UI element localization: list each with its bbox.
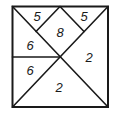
tangram-diagram: 5 5 8 6 6 2 2 <box>0 0 113 114</box>
piece-label: 6 <box>26 63 34 78</box>
piece-label: 2 <box>54 80 63 95</box>
piece-label: 5 <box>33 9 41 24</box>
piece-label: 2 <box>84 50 93 65</box>
piece-label: 5 <box>80 9 88 24</box>
piece-label: 8 <box>56 25 64 40</box>
piece-label: 6 <box>26 38 34 53</box>
